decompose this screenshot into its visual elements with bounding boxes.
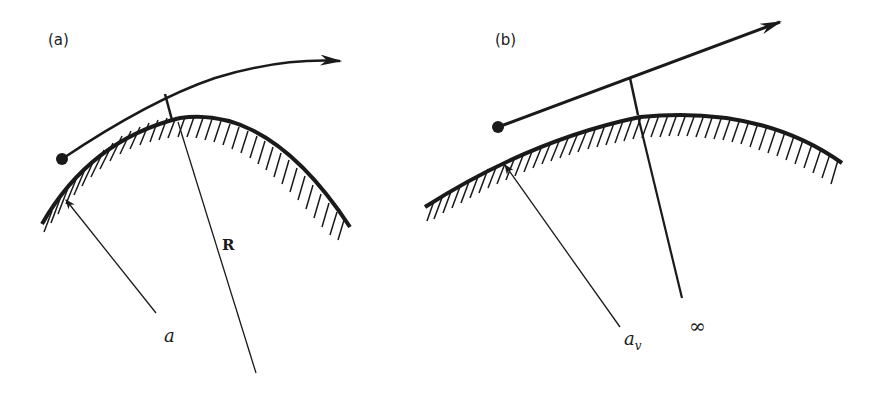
gap-connector-b [630,78,638,115]
radius-line-a [66,200,156,313]
surface-hatching-b [427,114,838,221]
label-radius-R: R [222,236,234,254]
label-radius-av: av [624,328,642,353]
surface-hatching-a [44,117,344,240]
diagram-canvas [0,0,884,393]
radius-line-infinity [638,116,682,298]
label-av-main: a [624,328,635,349]
surface-arc-b [425,115,842,207]
trajectory-line-b [498,22,780,127]
panel-b [425,22,842,327]
label-radius-a: a [164,325,175,346]
trajectory-curve-a [62,61,340,159]
panel-a [42,61,350,373]
panel-label-b: (b) [495,31,516,49]
radius-line-av [505,165,620,327]
panel-label-a: (a) [48,31,69,49]
label-av-sub: v [635,339,642,353]
radius-line-R [178,122,256,373]
label-radius-infinity: ∞ [689,314,706,338]
